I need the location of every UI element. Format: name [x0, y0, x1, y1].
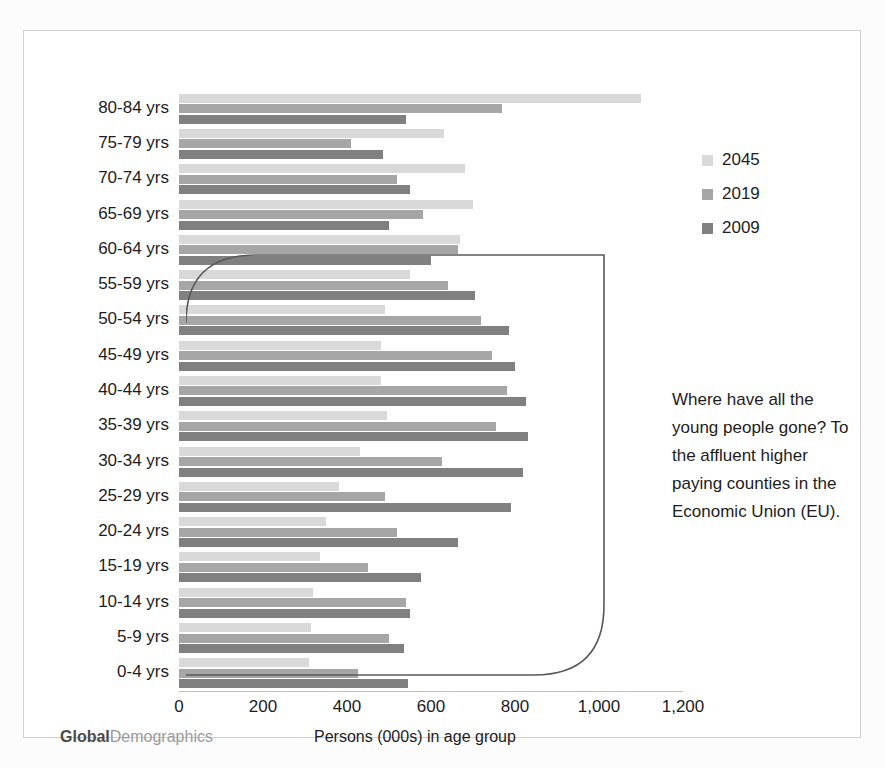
bar: [179, 538, 458, 547]
bar: [179, 341, 381, 350]
y-axis-label: 20-24 yrs: [49, 521, 169, 541]
bar-group: [179, 620, 683, 655]
y-axis-label: 30-34 yrs: [49, 451, 169, 471]
bar-group: [179, 126, 683, 161]
legend-label: 2019: [722, 184, 760, 204]
bar: [179, 221, 389, 230]
x-axis-tick-label: 0: [144, 697, 214, 717]
bar-group: [179, 409, 683, 444]
bar: [179, 468, 523, 477]
brand-name-bold: Global: [60, 728, 110, 745]
legend-item: 2045: [702, 143, 842, 177]
bar: [179, 397, 526, 406]
bar-group: [179, 479, 683, 514]
annotation-text: Where have all the young people gone? To…: [672, 386, 862, 526]
bar: [179, 573, 421, 582]
bar: [179, 200, 473, 209]
bar: [179, 245, 458, 254]
figure-canvas: 80-84 yrs75-79 yrs70-74 yrs65-69 yrs60-6…: [0, 0, 886, 768]
legend-item: 2019: [702, 177, 842, 211]
chart-frame: 80-84 yrs75-79 yrs70-74 yrs65-69 yrs60-6…: [23, 30, 861, 738]
bar-group: [179, 162, 683, 197]
y-axis-label: 60-64 yrs: [49, 239, 169, 259]
bar: [179, 492, 385, 501]
bar: [179, 150, 383, 159]
bar-group: [179, 585, 683, 620]
bar: [179, 210, 423, 219]
bar-group: [179, 373, 683, 408]
bar-group: [179, 550, 683, 585]
bar: [179, 563, 368, 572]
bar-group: [179, 338, 683, 373]
x-axis-title: Persons (000s) in age group: [314, 728, 516, 746]
bar: [179, 305, 385, 314]
x-axis-tick-label: 600: [396, 697, 466, 717]
y-axis-label: 75-79 yrs: [49, 133, 169, 153]
y-axis-label: 45-49 yrs: [49, 345, 169, 365]
legend-label: 2009: [722, 218, 760, 238]
chart-legend: 204520192009: [702, 143, 842, 245]
bar: [179, 411, 387, 420]
y-axis-label: 10-14 yrs: [49, 592, 169, 612]
bar: [179, 588, 313, 597]
x-axis-tick-label: 1,200: [648, 697, 718, 717]
y-axis-label: 15-19 yrs: [49, 556, 169, 576]
bar: [179, 669, 358, 678]
bar: [179, 623, 311, 632]
bar-group: [179, 515, 683, 550]
legend-label: 2045: [722, 150, 760, 170]
bar: [179, 447, 360, 456]
y-axis-label: 40-44 yrs: [49, 380, 169, 400]
bar: [179, 422, 496, 431]
bar: [179, 104, 502, 113]
bar: [179, 129, 444, 138]
x-axis-line: [179, 691, 683, 692]
y-axis-label: 0-4 yrs: [49, 662, 169, 682]
bar: [179, 185, 410, 194]
bar: [179, 634, 389, 643]
bar: [179, 351, 492, 360]
bar-group: [179, 444, 683, 479]
bar: [179, 326, 509, 335]
brand-logo: GlobalDemographics: [60, 728, 213, 746]
bar: [179, 503, 511, 512]
bar-group: [179, 303, 683, 338]
x-axis-tick-label: 800: [480, 697, 550, 717]
x-axis-tick-label: 200: [228, 697, 298, 717]
bar: [179, 482, 339, 491]
bar: [179, 175, 397, 184]
bar: [179, 552, 320, 561]
bar: [179, 457, 442, 466]
x-axis-ticks: 02004006008001,0001,200: [179, 697, 683, 723]
y-axis-label: 25-29 yrs: [49, 486, 169, 506]
legend-swatch-icon: [702, 223, 713, 234]
y-axis-labels: 80-84 yrs75-79 yrs70-74 yrs65-69 yrs60-6…: [49, 91, 169, 691]
bar: [179, 164, 465, 173]
bar: [179, 281, 448, 290]
bar: [179, 256, 431, 265]
legend-item: 2009: [702, 211, 842, 245]
bar-group: [179, 267, 683, 302]
bar: [179, 115, 406, 124]
bar: [179, 517, 326, 526]
plot-area: [179, 91, 683, 691]
bar: [179, 139, 351, 148]
bar-group: [179, 232, 683, 267]
bar: [179, 528, 397, 537]
x-axis-tick-label: 400: [312, 697, 382, 717]
bar-group: [179, 197, 683, 232]
x-axis-tick-label: 1,000: [564, 697, 634, 717]
y-axis-label: 80-84 yrs: [49, 98, 169, 118]
bar: [179, 94, 641, 103]
brand-name-light: Demographics: [110, 728, 213, 745]
legend-swatch-icon: [702, 189, 713, 200]
bar: [179, 386, 507, 395]
bar: [179, 598, 406, 607]
bar: [179, 376, 381, 385]
bar: [179, 644, 404, 653]
bar: [179, 291, 475, 300]
legend-swatch-icon: [702, 155, 713, 166]
y-axis-label: 50-54 yrs: [49, 309, 169, 329]
bar: [179, 235, 460, 244]
bar: [179, 270, 410, 279]
